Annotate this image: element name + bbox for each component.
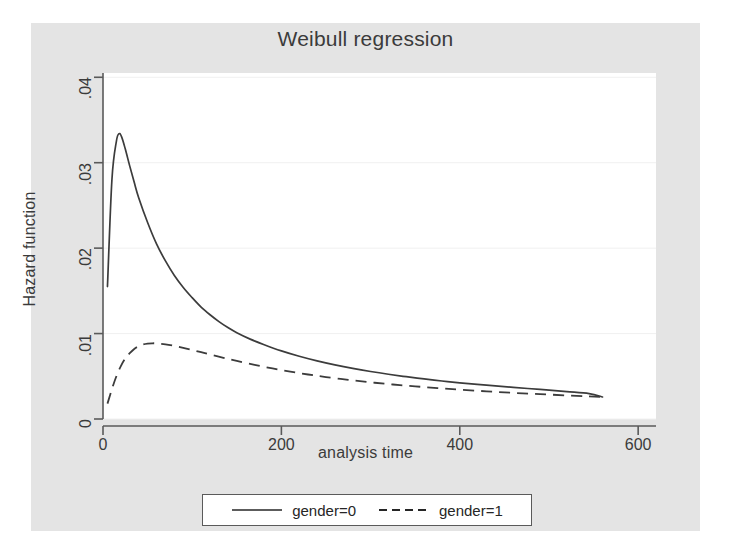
y-tick-label: .02 (77, 248, 95, 270)
legend-entry-gender-0: gender=0 (220, 502, 367, 519)
x-axis-tick-labels: 0200400600 (0, 426, 731, 452)
legend-entry-gender-1: gender=1 (367, 502, 514, 519)
y-axis-title: Hazard function (21, 159, 39, 339)
x-tick-label: 0 (99, 436, 108, 454)
legend-swatch-solid (231, 504, 283, 516)
y-tick-label: .01 (77, 334, 95, 356)
legend-label-gender-1: gender=1 (439, 502, 503, 519)
chart-figure: Weibull regression Hazard function analy… (0, 0, 731, 555)
legend-label-gender-0: gender=0 (292, 502, 356, 519)
y-tick-label: .03 (77, 163, 95, 185)
chart-title: Weibull regression (0, 27, 731, 51)
legend: gender=0 gender=1 (202, 494, 532, 526)
y-axis-ticks (94, 77, 103, 419)
legend-swatch-dashed (378, 504, 430, 516)
x-tick-label: 600 (625, 436, 652, 454)
y-axis-tick-labels: 0.01.02.03.04 (44, 0, 86, 555)
plot-canvas (0, 0, 731, 555)
y-tick-label: .04 (77, 77, 95, 99)
plot-region (103, 73, 656, 419)
x-tick-label: 400 (446, 436, 473, 454)
x-tick-label: 200 (268, 436, 295, 454)
